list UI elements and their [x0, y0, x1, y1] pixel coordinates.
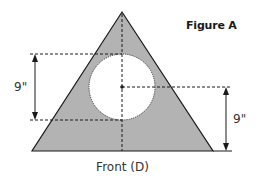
left-arrow-up-icon	[32, 54, 38, 62]
right-arrow-down-icon	[223, 143, 229, 151]
center-dot	[120, 85, 124, 89]
figure-title: Figure A	[186, 19, 237, 32]
left-arrow-down-icon	[32, 112, 38, 120]
right-dimension-label: 9"	[233, 112, 246, 126]
right-arrow-up-icon	[223, 87, 229, 95]
left-dimension-label: 9"	[14, 80, 27, 94]
figure-caption: Front (D)	[0, 160, 245, 174]
